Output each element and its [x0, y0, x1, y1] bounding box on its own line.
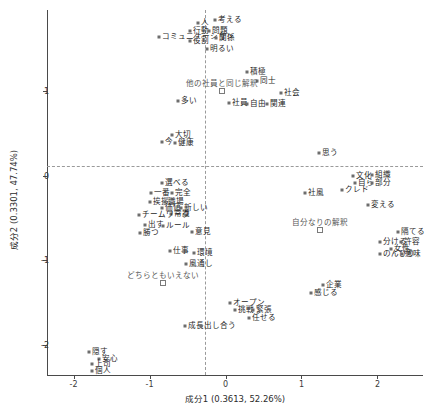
data-point-label: 部分	[375, 179, 391, 187]
data-point-label: 変える	[371, 201, 395, 209]
data-point	[185, 262, 188, 265]
data-point	[265, 103, 268, 106]
data-point	[245, 103, 248, 106]
data-point-label: 役割	[193, 38, 209, 46]
data-point	[251, 309, 254, 312]
data-point	[304, 191, 307, 194]
data-point	[321, 284, 324, 287]
x-axis-line	[47, 375, 423, 376]
data-point	[160, 280, 166, 286]
data-point	[161, 140, 164, 143]
data-point	[371, 182, 374, 185]
y-tick-label: 0	[44, 171, 49, 180]
data-point-label: 意味	[405, 251, 421, 259]
data-point	[139, 232, 142, 235]
x-tick	[377, 375, 378, 379]
data-point	[157, 36, 160, 39]
data-point-label: 大切	[175, 131, 191, 139]
data-point-label: 健康	[178, 139, 194, 147]
x-tick-label: 2	[375, 380, 380, 389]
data-point	[378, 240, 381, 243]
zero-horizontal-reference-line	[47, 166, 423, 167]
data-point	[317, 151, 320, 154]
data-point	[191, 230, 194, 233]
data-point-label: 考える	[218, 16, 242, 24]
data-point	[188, 40, 191, 43]
data-point	[197, 21, 200, 24]
data-point-label: 関係	[219, 34, 235, 42]
data-point-label: クレド	[345, 186, 369, 194]
data-point	[160, 182, 163, 185]
x-tick-label: -2	[70, 380, 78, 389]
correspondence-analysis-scatter-plot: -2-101210-1-2 人考える行動問題コミュニケーション関係役割明るい積極…	[0, 0, 428, 415]
data-point-label: 思う	[322, 149, 338, 157]
data-point	[170, 191, 173, 194]
data-point	[184, 324, 187, 327]
data-point-label: 勝つ	[143, 229, 159, 237]
data-point-label: 自由	[250, 100, 266, 108]
data-point	[371, 173, 374, 176]
data-point-label: どちらともいえない	[127, 273, 199, 281]
data-point	[161, 206, 164, 209]
data-point	[87, 351, 90, 354]
data-point	[90, 369, 93, 372]
y-axis-line	[47, 10, 48, 375]
data-point-label: 意見	[195, 228, 211, 236]
data-point	[234, 309, 237, 312]
data-point-label: 完全	[175, 189, 191, 197]
data-point	[229, 301, 232, 304]
data-point-label: 同士	[260, 78, 276, 86]
x-tick	[301, 375, 302, 379]
data-point	[150, 191, 153, 194]
data-point	[400, 253, 403, 256]
data-point	[317, 227, 323, 233]
data-point	[396, 230, 399, 233]
x-tick	[226, 375, 227, 379]
data-point-label: 出し合う	[204, 322, 236, 330]
data-point-label: 組織	[375, 171, 391, 179]
x-tick-label: -1	[146, 380, 154, 389]
y-tick-label: -2	[41, 341, 49, 350]
y-axis-title: 成分2 (0.3301, 47.74%)	[7, 150, 19, 250]
data-point-label: 他の社員と同じ解釈	[186, 80, 258, 88]
data-point	[192, 251, 195, 254]
y-tick-label: 1	[44, 86, 49, 95]
data-point	[162, 224, 165, 227]
data-point	[148, 200, 151, 203]
data-point	[352, 174, 355, 177]
data-point-label: 社会	[284, 89, 300, 97]
data-point-label: 仕事	[173, 247, 189, 255]
x-tick	[74, 375, 75, 379]
x-axis-title: 成分1 (0.3613, 52.26%)	[185, 392, 285, 404]
data-point-label: 隔てる	[401, 228, 425, 236]
data-point-label: 環境	[197, 249, 213, 257]
data-point	[227, 101, 230, 104]
data-point	[214, 37, 217, 40]
data-point	[309, 291, 312, 294]
data-point	[248, 317, 251, 320]
data-point-label: 任せる	[252, 314, 276, 322]
data-point-label: 一番	[154, 189, 170, 197]
data-point-label: 積極	[250, 68, 266, 76]
data-point	[143, 223, 146, 226]
data-point-label: 自分なりの解釈	[292, 219, 348, 227]
data-point	[200, 324, 203, 327]
x-tick-label: 1	[299, 380, 304, 389]
data-point	[245, 70, 248, 73]
data-point-label: 多い	[181, 97, 197, 105]
data-point-label: 個人	[95, 367, 111, 375]
data-point	[205, 48, 208, 51]
data-point-label: 関連	[270, 100, 286, 108]
data-point	[137, 214, 140, 217]
data-point	[169, 250, 172, 253]
data-point	[279, 92, 282, 95]
data-point-label: 選べる	[165, 179, 189, 187]
data-point-label: 人	[201, 19, 209, 27]
data-point	[90, 362, 93, 365]
x-tick-label: 0	[223, 380, 228, 389]
y-tick-label: -1	[41, 256, 49, 265]
data-point	[213, 19, 216, 22]
data-point	[177, 99, 180, 102]
data-point	[378, 253, 381, 256]
data-point-label: ルール	[166, 222, 190, 230]
